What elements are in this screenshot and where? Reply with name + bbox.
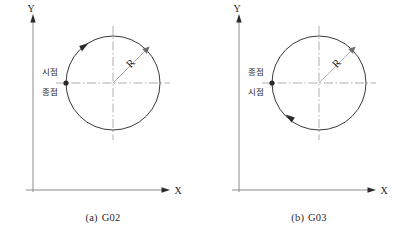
x-axis-arrowhead [368,187,377,192]
diagram-svg-g03: Y X R 종점 시점 [206,0,412,210]
caption-code-g02: G02 [102,212,121,223]
caption-g02: (a)G02 [0,212,206,223]
figure-circular-interpolation: Y X R 시점 종점 (a)G02 [0,0,412,247]
diagram-svg-g02: Y X R 시점 종점 [0,0,206,210]
start-end-point-marker [269,80,274,85]
y-axis-label: Y [233,3,240,14]
point-label-lower: 종점 [42,87,58,97]
point-label-upper: 종점 [248,67,264,77]
x-axis-label: X [380,185,388,196]
point-label-lower: 시점 [248,87,264,97]
caption-index-a: (a) [86,212,98,223]
direction-arrow-clockwise [79,43,88,51]
y-axis-arrowhead [236,14,241,23]
radius-label: R [123,56,137,70]
caption-g03: (b)G03 [206,212,412,223]
start-end-point-marker [63,80,68,85]
y-axis-arrowhead [30,14,35,23]
caption-index-b: (b) [291,212,304,223]
direction-arrow-counterclockwise [286,115,295,123]
x-axis-arrowhead [162,187,171,192]
x-axis-label: X [174,185,182,196]
y-axis-label: Y [27,3,34,14]
diagram-panel-g03: Y X R 종점 시점 (b)G03 [206,0,412,247]
radius-label: R [329,56,343,70]
point-label-upper: 시점 [42,67,58,77]
caption-code-g03: G03 [308,212,327,223]
diagram-panel-g02: Y X R 시점 종점 (a)G02 [0,0,206,247]
